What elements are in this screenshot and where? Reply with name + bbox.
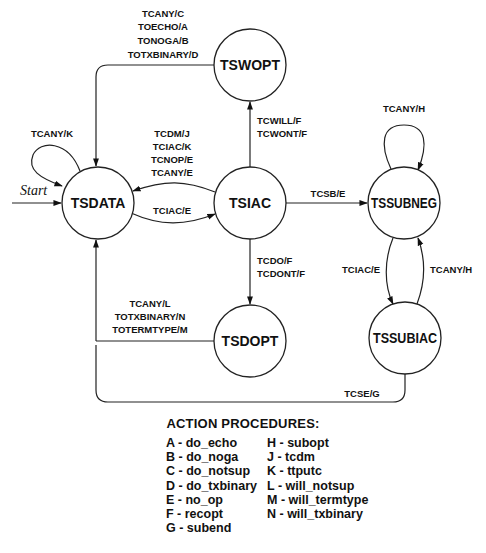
transition-label: TCSE/G [344,388,379,399]
transition-label: TCDO/F [257,255,293,266]
transition-tsiac-tsdopt: TCDO/F TCDONT/F [250,239,305,304]
legend-item: E - no_op [166,493,257,507]
transition-tsdata-tsiac: TCIAC/E [131,205,215,223]
start-transition: Start [12,183,61,203]
arrow-icon [386,238,393,304]
state-tssubiac: TSSUBIAC [369,302,441,374]
legend-item: H - subopt [267,436,368,450]
transition-label: TCDONT/F [257,268,305,279]
transition-label: TCIAC/E [153,205,191,216]
state-tsiac: TSIAC [214,167,286,239]
legend-item: C - do_notsup [166,464,257,478]
state-label: TSIAC [229,195,271,211]
transition-tssubneg-self: TCANY/H [383,103,425,170]
legend-item: J - tcdm [267,450,368,464]
state-tswopt: TSWOPT [214,29,286,101]
state-label: TSDOPT [222,333,279,349]
transition-tssubiac-tssubneg: TCANY/H [417,238,472,304]
transition-label: TCWILL/F [257,115,302,126]
legend-item: D - do_txbinary [166,479,257,493]
transition-label: TOTXBINARY/D [128,49,199,60]
transition-label: TCANY/L [129,298,170,309]
state-label: TSWOPT [220,57,280,73]
transition-label: TCANY/H [383,103,425,114]
transition-label: TCANY/H [430,264,472,275]
transition-label: TCANY/E [151,167,193,178]
legend-item: K - ttputc [267,464,368,478]
state-label: TSSUBNEG [371,195,437,211]
legend-column-2: H - subopt J - tcdm K - ttputc L - will_… [267,436,368,535]
transition-tsiac-tswopt: TCWILL/F TCWONT/F [250,102,307,167]
transition-tsdopt-tsdata: TCANY/L TOTXBINARY/N TOTERMTYPE/M [96,240,214,341]
state-diagram: Start TCANY/C TOECHO/A TONOGA/B TOTXBINA… [0,0,486,415]
transition-label: TCDM/J [154,128,189,139]
transition-label: TCIAC/K [153,141,192,152]
transition-label: TCSB/E [311,188,346,199]
arrow-icon [384,125,424,170]
transition-label: TCNOP/E [151,154,193,165]
state-label: TSDATA [71,195,126,211]
legend-item: M - will_termtype [267,493,368,507]
transition-tssubneg-tssubiac: TCIAC/E [342,238,393,304]
transition-label: TOTERMTYPE/M [112,324,187,335]
transition-label: TCANY/K [31,128,73,139]
legend-title: ACTION PROCEDURES: [0,416,486,431]
transition-label: TCANY/C [142,8,184,19]
transition-label: TONOGA/B [137,35,188,46]
legend-item: L - will_notsup [267,479,368,493]
transition-label: TCWONT/F [257,128,307,139]
legend-item: G - subend [166,521,257,535]
legend-item: B - do_noga [166,450,257,464]
start-label: Start [20,183,48,198]
transition-label: TCIAC/E [342,264,380,275]
state-label: TSSUBIAC [373,330,437,346]
state-tsdata: TSDATA [62,167,134,239]
legend-item: N - will_txbinary [267,507,368,521]
arrow-icon [133,183,215,192]
transition-tsiac-tsdata: TCDM/J TCIAC/K TCNOP/E TCANY/E [133,128,215,192]
action-procedures-legend: A - do_echo B - do_noga C - do_notsup D … [166,436,368,535]
legend-item: F - recopt [166,507,257,521]
legend-column-1: A - do_echo B - do_noga C - do_notsup D … [166,436,257,535]
transition-tsiac-tssubneg: TCSB/E [286,188,367,203]
legend-item: A - do_echo [166,436,257,450]
state-tsdopt: TSDOPT [214,305,286,377]
state-tssubneg: TSSUBNEG [368,167,440,239]
transition-label: TOTXBINARY/N [115,311,186,322]
transition-label: TOECHO/A [138,21,188,32]
arrow-icon [417,238,424,304]
